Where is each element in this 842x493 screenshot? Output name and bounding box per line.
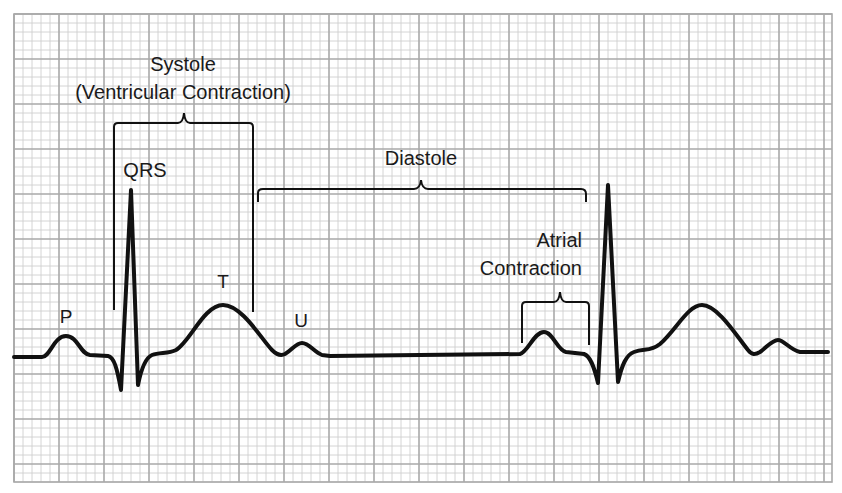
diastole-label: Diastole <box>385 147 457 169</box>
ecg-trace <box>14 185 828 390</box>
u-wave-label: U <box>294 310 308 331</box>
atrial-label: Atrial <box>536 229 582 251</box>
systole-label: Systole <box>150 53 216 75</box>
atrial-contraction-bracket <box>522 292 589 345</box>
t-wave-label: T <box>217 271 229 292</box>
ecg-diagram: Systole (Ventricular Contraction) QRS Di… <box>0 0 842 493</box>
diastole-bracket <box>258 180 586 202</box>
contraction-label: Contraction <box>480 257 582 279</box>
qrs-label: QRS <box>123 159 166 181</box>
p-wave-label: P <box>60 306 73 327</box>
ventricular-contraction-label: (Ventricular Contraction) <box>75 81 291 103</box>
